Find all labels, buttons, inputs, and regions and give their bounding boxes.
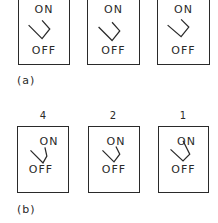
switch-number: 2 (87, 110, 139, 121)
panel-b-label: (b) (17, 203, 36, 216)
toggle-lever-icon (18, 127, 68, 192)
switch-off-label: OFF (88, 44, 139, 57)
panel-a-label: (a) (17, 74, 35, 87)
switch-b-1[interactable]: ON OFF (158, 126, 209, 193)
switch-off-label: OFF (159, 163, 208, 176)
switch-a-1[interactable]: ON OFF (18, 0, 70, 65)
toggle-lever-icon (159, 127, 208, 192)
switch-number: 4 (17, 110, 69, 121)
switch-off-label: OFF (89, 163, 139, 176)
switch-off-label: OFF (158, 44, 209, 57)
switch-a-3[interactable]: ON OFF (157, 0, 210, 65)
switch-b-4[interactable]: ON OFF (17, 126, 69, 193)
switch-off-label: OFF (16, 163, 66, 176)
toggle-lever-icon (89, 127, 139, 192)
switch-a-2[interactable]: ON OFF (87, 0, 140, 65)
switch-off-label: OFF (19, 44, 69, 57)
switch-b-2[interactable]: ON OFF (88, 126, 140, 193)
switch-number: 1 (157, 110, 209, 121)
